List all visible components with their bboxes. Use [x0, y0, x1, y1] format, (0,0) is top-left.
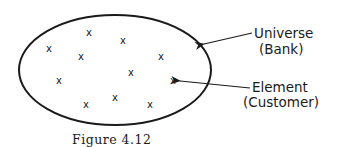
element-marker: x — [56, 75, 62, 86]
universe-label: Universe — [254, 25, 313, 41]
universe-sublabel: (Bank) — [259, 41, 303, 57]
figure-caption: Figure 4.12 — [72, 132, 151, 147]
element-marker: x — [86, 27, 92, 38]
element-marker: x — [158, 51, 164, 62]
element-marker: x — [46, 43, 52, 54]
universe-ellipse — [19, 15, 211, 125]
element-marker-pointed: x — [170, 75, 176, 86]
venn-diagram: x x x x x x x x x x x Universe (Bank) El… — [0, 0, 347, 147]
element-marker: x — [128, 67, 134, 78]
element-label: Element — [252, 79, 308, 95]
element-marker: x — [83, 99, 89, 110]
element-sublabel: (Customer) — [243, 94, 319, 110]
element-marker: x — [120, 35, 126, 46]
element-marker: x — [147, 99, 153, 110]
elements-group: x x x x x x x x x x x — [46, 27, 176, 110]
element-arrow — [180, 81, 250, 88]
universe-arrow — [204, 33, 252, 44]
element-marker: x — [78, 51, 84, 62]
element-marker: x — [112, 92, 118, 103]
